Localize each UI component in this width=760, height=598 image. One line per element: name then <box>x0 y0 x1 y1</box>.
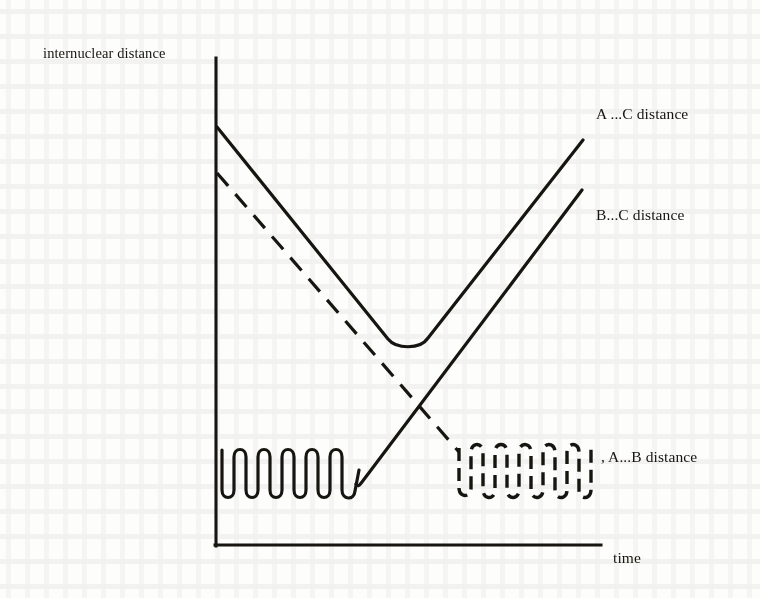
reaction-coordinate-figure <box>0 0 760 598</box>
y-axis-label: internuclear distance <box>43 46 165 62</box>
bc-vibration-segment <box>222 450 359 499</box>
ab-dashed-vibration-segment <box>459 445 591 498</box>
bc-rising-line <box>356 190 582 486</box>
x-axis-label: time <box>613 549 641 566</box>
curve-ab-distance <box>217 173 591 498</box>
curve-bc-distance <box>222 190 582 498</box>
curve-label-ab-distance: , A...B distance <box>601 448 697 465</box>
curve-label-ac-distance: A ...C distance <box>596 105 688 122</box>
curve-label-bc-distance: B...C distance <box>596 206 684 223</box>
ab-dashed-descending-line <box>217 173 459 452</box>
